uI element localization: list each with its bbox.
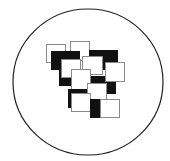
tile-white-o: [101, 100, 120, 118]
tile-white-g: [106, 63, 125, 82]
circle-tile-diagram: [0, 0, 170, 161]
tile-white-m: [72, 94, 91, 112]
